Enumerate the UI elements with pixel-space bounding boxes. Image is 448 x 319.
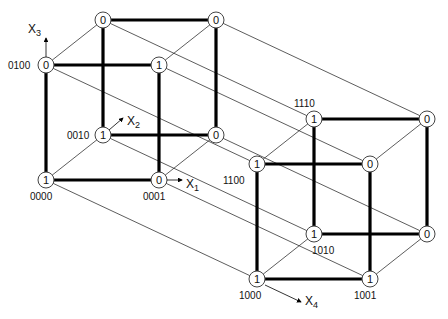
node-value: 0: [100, 14, 106, 26]
node-1011: 0: [419, 226, 435, 242]
edge-x4-0101-1101: [159, 65, 370, 164]
node-value: 0: [424, 113, 430, 125]
axis-x1: X1: [167, 177, 199, 193]
node-code-label-0100: 0100: [8, 60, 31, 71]
axis-x2-arrow: [109, 118, 123, 130]
edge-x2-0100-0110: [46, 20, 103, 65]
edge-x4-0110-1110: [103, 20, 314, 119]
node-1010: 1: [306, 226, 322, 242]
node-value: 1: [156, 59, 162, 71]
node-1100: 1: [249, 156, 265, 172]
node-value: 0: [367, 158, 373, 170]
axis-x3: X3: [28, 22, 46, 57]
edge-x4-0011-1011: [216, 135, 427, 234]
node-0111: 0: [208, 12, 224, 28]
node-1111: 0: [419, 111, 435, 127]
node-value: 1: [311, 113, 317, 125]
node-value: 0: [43, 59, 49, 71]
axis-x4-arrow: [265, 285, 301, 302]
bold-edges: [46, 20, 427, 279]
node-code-label-1001: 1001: [354, 290, 377, 301]
edge-x2-1001-1011: [370, 234, 427, 279]
node-1000: 1: [249, 271, 265, 287]
node-value: 1: [254, 158, 260, 170]
node-value: 1: [367, 273, 373, 285]
edge-x2-1100-1110: [257, 119, 314, 164]
node-value: 0: [424, 228, 430, 240]
node-code-label-1100: 1100: [223, 175, 245, 186]
node-value: 1: [254, 273, 260, 285]
hypercube-diagram: 1010010011101010 00000001001001001000100…: [0, 0, 448, 319]
edge-x2-0000-0010: [46, 135, 103, 180]
edge-x2-1000-1010: [257, 234, 314, 279]
node-value: 0: [156, 174, 162, 186]
node-0001: 0: [151, 172, 167, 188]
node-value: 1: [100, 129, 106, 141]
node-1101: 0: [362, 156, 378, 172]
edge-x2-1101-1111: [370, 119, 427, 164]
node-value: 1: [43, 174, 49, 186]
node-0101: 1: [151, 57, 167, 73]
edge-x4-0100-1100: [46, 65, 257, 164]
nodes: 1010010011101010: [38, 12, 435, 287]
node-0000: 1: [38, 172, 54, 188]
edge-x4-0111-1111: [216, 20, 427, 119]
node-0010: 1: [95, 127, 111, 143]
node-code-label-0001: 0001: [143, 191, 166, 202]
node-value: 1: [311, 228, 317, 240]
node-0011: 0: [208, 127, 224, 143]
node-value: 0: [213, 129, 219, 141]
node-code-label-0010: 0010: [67, 130, 90, 141]
edge-x2-0001-0011: [159, 135, 216, 180]
node-0110: 0: [95, 12, 111, 28]
node-code-label-1110: 1110: [294, 98, 315, 109]
node-code-label-1010: 1010: [312, 245, 335, 256]
node-0100: 0: [38, 57, 54, 73]
edge-x2-0101-0111: [159, 20, 216, 65]
node-1110: 1: [306, 111, 322, 127]
axis-x2: X2: [109, 114, 140, 130]
node-value: 0: [213, 14, 219, 26]
node-code-label-0000: 0000: [30, 191, 53, 202]
axis-x4: X4: [265, 285, 318, 310]
axis-x4-label: X4: [305, 294, 318, 310]
edge-x4-0010-1010: [103, 135, 314, 234]
node-1001: 1: [362, 271, 378, 287]
node-code-label-1000: 1000: [239, 290, 262, 301]
edge-x4-0001-1001: [159, 180, 370, 279]
axis-x2-label: X2: [127, 114, 140, 130]
axis-x3-label: X3: [28, 22, 41, 38]
